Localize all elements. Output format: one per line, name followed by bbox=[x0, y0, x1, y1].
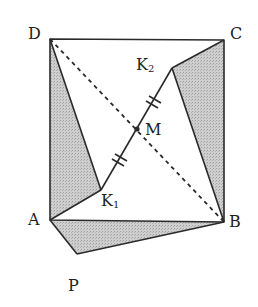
diagram-canvas bbox=[0, 0, 258, 307]
shaded-triangle-CK2B bbox=[172, 40, 224, 222]
label-P: P bbox=[68, 278, 79, 294]
shaded-triangle-DK1A bbox=[50, 39, 101, 220]
label-B: B bbox=[229, 214, 241, 230]
tick-marks-MK2 bbox=[146, 96, 161, 108]
label-K1: K1 bbox=[101, 193, 119, 210]
label-M: M bbox=[145, 122, 161, 138]
tick-marks-K1M bbox=[112, 154, 127, 166]
label-A: A bbox=[28, 212, 40, 228]
geometry-diagram: D C A B K2 K1 M P bbox=[0, 0, 258, 307]
midpoint-M-dot bbox=[134, 126, 139, 131]
label-C: C bbox=[230, 26, 242, 42]
label-D: D bbox=[28, 26, 41, 42]
label-K2: K2 bbox=[136, 57, 154, 74]
shaded-triangle-APB bbox=[50, 220, 224, 254]
